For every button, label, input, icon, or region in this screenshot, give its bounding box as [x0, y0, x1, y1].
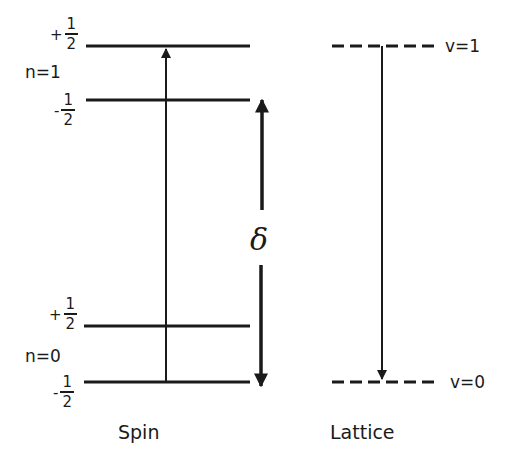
lattice-title: Lattice — [330, 423, 395, 442]
label-n1: n=1 — [25, 64, 61, 81]
label-n0: n=0 — [25, 348, 61, 365]
spin-title: Spin — [118, 423, 159, 442]
delta-symbol: δ — [250, 222, 268, 257]
label-n0-minus-half: - 12 — [53, 375, 74, 410]
label-n1-plus-half: + 12 — [50, 17, 78, 52]
label-v0: v=0 — [450, 374, 485, 391]
label-v1: v=1 — [445, 38, 480, 55]
label-n1-minus-half: - 12 — [54, 93, 75, 128]
label-n0-plus-half: + 12 — [49, 297, 77, 332]
